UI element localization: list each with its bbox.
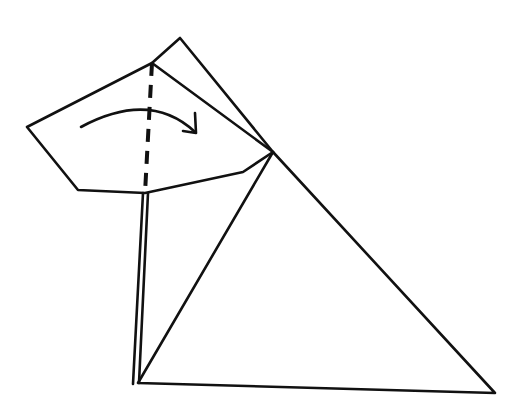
back-flap-edge (152, 38, 273, 152)
fold-arrow-icon (81, 110, 195, 132)
large-triangle-shape (138, 152, 495, 393)
front-flap-shape (27, 63, 273, 193)
diagram-svg (0, 0, 526, 417)
valley-fold-crease-line (145, 63, 152, 193)
origami-diagram (0, 0, 526, 417)
